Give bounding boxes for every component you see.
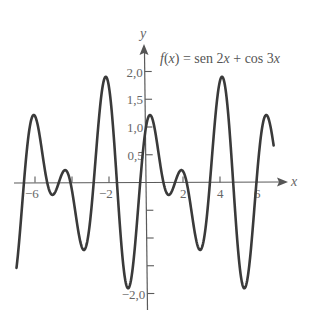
y-axis [145, 52, 148, 310]
y-tick-label: 1,5 [127, 92, 143, 107]
y-tick-label: 1,0 [127, 120, 143, 135]
y-tick-label: −2,0 [122, 287, 146, 302]
x-tick-label: 4 [217, 186, 224, 201]
function-plot: x y −6−2246 2,01,51,00,5−2,0 f(x) = sen … [0, 0, 320, 322]
y-tick-label: 2,0 [126, 65, 142, 80]
x-tick-label: −2 [99, 186, 113, 201]
x-tick-label: −6 [25, 186, 39, 201]
x-axis [14, 182, 280, 183]
x-tick-label: 2 [180, 186, 187, 201]
function-label: f(x) = sen 2x + cos 3x [160, 51, 281, 67]
y-axis-label: y [138, 26, 147, 41]
x-axis-label: x [290, 174, 298, 189]
